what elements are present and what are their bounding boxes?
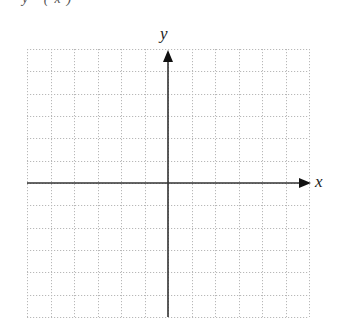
axes [27, 50, 311, 317]
x-axis-label: x [315, 172, 323, 192]
x-axis-arrow-icon [299, 178, 311, 188]
coordinate-plane [0, 0, 342, 330]
y-axis-label: y [160, 24, 168, 44]
y-axis-arrow-icon [163, 50, 173, 62]
